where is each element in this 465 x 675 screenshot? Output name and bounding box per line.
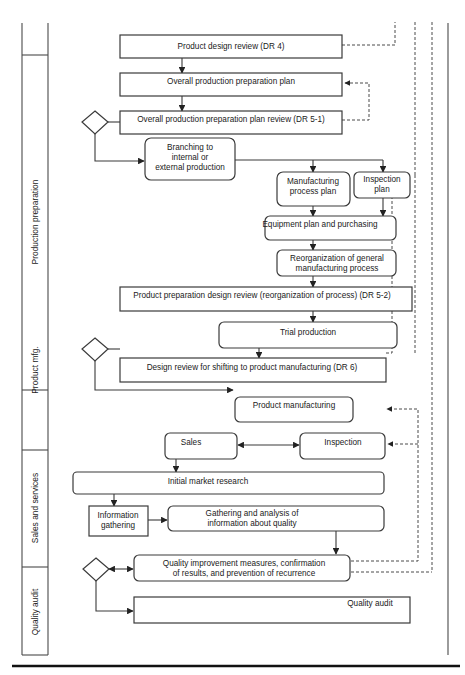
lane-label-production-preparation: Production preparation	[30, 179, 40, 264]
node-text-line: Overall production preparation plan revi…	[137, 115, 325, 124]
svg-text:Design review for shifting to: Design review for shifting to product ma…	[147, 363, 358, 372]
node-sales: Sales	[165, 433, 237, 459]
node-text-line: Information	[98, 511, 139, 520]
lane-header-column: Production preparation Product mfg. Sale…	[22, 23, 48, 655]
svg-text:Informationgathering: Informationgathering	[98, 511, 139, 530]
node-text-line: Product preparation design review (reorg…	[133, 291, 391, 300]
svg-text:Reorganization of generalmanuf: Reorganization of generalmanufacturing p…	[290, 254, 384, 273]
node-trial-production: Trial production	[219, 322, 397, 348]
node-dr6: Design review for shifting to product ma…	[120, 358, 386, 382]
node-manufacturing-process-plan: Manufacturingprocess plan	[277, 172, 350, 206]
node-text-line: Manufacturing	[287, 177, 339, 186]
node-dr5-2: Product preparation design review (reorg…	[120, 287, 412, 311]
node-text-line: Gathering and analysis of	[206, 509, 300, 518]
swimlane-flowchart: Production preparation Product mfg. Sale…	[0, 0, 465, 675]
node-text-line: Inspection	[363, 175, 401, 184]
node-text-line: gathering	[101, 521, 136, 530]
node-text-line: Trial production	[280, 328, 337, 337]
node-overall-plan: Overall production preparation plan	[120, 73, 342, 96]
svg-text:Sales: Sales	[181, 438, 201, 447]
decision-diamond-dr6	[82, 338, 108, 361]
node-text-line: Quality improvement measures, confirmati…	[163, 559, 326, 568]
svg-text:Initial market research: Initial market research	[168, 477, 249, 486]
lane-label-product-mfg: Product mfg.	[30, 346, 40, 393]
svg-text:Product design review (DR 4): Product design review (DR 4)	[178, 42, 285, 51]
svg-text:Overall production preparation: Overall production preparation plan	[167, 77, 295, 86]
decision-diamond-dr5-1	[82, 111, 108, 134]
node-text-line: Product manufacturing	[253, 401, 336, 410]
node-product-manufacturing: Product manufacturing	[235, 397, 353, 422]
node-reorganization: Reorganization of generalmanufacturing p…	[277, 250, 396, 276]
node-text-line: Sales	[181, 438, 201, 447]
node-text-line: external production	[155, 163, 225, 172]
node-text-line: Inspection	[324, 438, 362, 447]
node-text-line: plan	[374, 185, 390, 194]
node-inspection: Inspection	[300, 433, 385, 459]
node-text-line: Initial market research	[168, 477, 249, 486]
node-text-line: Product design review (DR 4)	[178, 42, 285, 51]
svg-text:Inspection: Inspection	[324, 438, 362, 447]
node-text-line: internal or	[172, 153, 209, 162]
node-inspection-plan: Inspectionplan	[354, 172, 410, 198]
svg-text:Product manufacturing: Product manufacturing	[253, 401, 336, 410]
lane-label-quality-audit: Quality audit	[30, 588, 40, 635]
node-quality-improvement: Quality improvement measures, confirmati…	[134, 555, 350, 581]
node-information-gathering: Informationgathering	[89, 506, 148, 536]
svg-text:Manufacturingprocess plan: Manufacturingprocess plan	[287, 177, 339, 196]
node-text-line: of results, and prevention of recurrence	[173, 569, 316, 578]
node-text-line: process plan	[290, 187, 337, 196]
node-text-line: Quality audit	[347, 599, 393, 608]
node-text-line: Equipment plan and purchasing	[262, 220, 378, 229]
node-text-line: Branching to	[167, 143, 213, 152]
decision-diamond-quality	[83, 558, 109, 581]
node-text-line: Reorganization of general	[290, 254, 384, 263]
node-dr4: Product design review (DR 4)	[120, 35, 342, 58]
svg-text:Quality audit: Quality audit	[347, 599, 393, 608]
svg-text:Gathering and analysis ofinfor: Gathering and analysis ofinformation abo…	[206, 509, 300, 528]
node-branching: Branching tointernal orexternal producti…	[145, 138, 235, 180]
lane-label-sales-and-services: Sales and services	[30, 473, 40, 543]
svg-text:Equipment plan and purchasing: Equipment plan and purchasing	[262, 220, 378, 229]
node-dr5-1: Overall production preparation plan revi…	[120, 111, 342, 134]
node-initial-market-research: Initial market research	[73, 472, 384, 494]
svg-text:Quality improvement measures,: Quality improvement measures, confirmati…	[163, 559, 326, 578]
node-equipment-plan: Equipment plan and purchasing	[262, 216, 396, 240]
svg-text:Trial production: Trial production	[280, 328, 337, 337]
svg-text:Product preparation design rev: Product preparation design review (reorg…	[133, 291, 391, 300]
svg-text:Overall production preparation: Overall production preparation plan revi…	[137, 115, 325, 124]
node-text-line: Overall production preparation plan	[167, 77, 295, 86]
node-text-line: information about quality	[207, 519, 297, 528]
node-quality-audit: Quality audit	[134, 597, 410, 623]
node-text-line: Design review for shifting to product ma…	[147, 363, 358, 372]
node-gathering-analysis: Gathering and analysis ofinformation abo…	[168, 506, 384, 531]
node-text-line: manufacturing process	[296, 264, 379, 273]
